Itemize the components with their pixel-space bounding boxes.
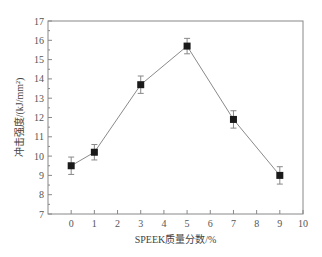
x-axis-ticks: 012345678910 <box>69 210 308 229</box>
x-tick-label: 10 <box>298 218 308 229</box>
error-bars <box>68 38 283 184</box>
x-tick-label: 3 <box>138 218 143 229</box>
y-tick-label: 10 <box>34 151 44 162</box>
y-tick-label: 7 <box>39 209 44 220</box>
x-tick-label: 7 <box>231 218 236 229</box>
data-markers <box>68 43 284 179</box>
y-tick-label: 16 <box>34 35 44 46</box>
square-marker <box>137 81 144 88</box>
plot-border <box>48 21 303 214</box>
square-marker <box>184 43 191 50</box>
y-tick-label: 9 <box>39 170 44 181</box>
y-tick-label: 8 <box>39 189 44 200</box>
x-tick-label: 6 <box>208 218 213 229</box>
y-tick-label: 14 <box>34 73 44 84</box>
square-marker <box>230 116 237 123</box>
square-marker <box>91 149 98 156</box>
impact-strength-chart: 7891011121314151617 012345678910 SPEEK质量… <box>0 0 322 257</box>
x-tick-label: 8 <box>254 218 259 229</box>
y-tick-label: 15 <box>34 54 44 65</box>
x-tick-label: 1 <box>92 218 97 229</box>
x-axis-label: SPEEK质量分数/% <box>135 233 217 245</box>
y-axis-label: 冲击强度/(kJ/mm²) <box>13 78 26 158</box>
y-tick-label: 17 <box>34 16 44 27</box>
x-tick-label: 5 <box>185 218 190 229</box>
square-marker <box>68 162 75 169</box>
y-tick-label: 11 <box>34 131 44 142</box>
x-tick-label: 9 <box>277 218 282 229</box>
y-tick-label: 13 <box>34 93 44 104</box>
square-marker <box>276 172 283 179</box>
x-tick-label: 4 <box>161 218 166 229</box>
y-axis-ticks: 7891011121314151617 <box>34 16 52 220</box>
y-tick-label: 12 <box>34 112 44 123</box>
x-tick-label: 0 <box>69 218 74 229</box>
series-polyline <box>71 46 280 175</box>
plot-frame <box>48 21 303 214</box>
x-tick-label: 2 <box>115 218 120 229</box>
data-line <box>71 46 280 175</box>
